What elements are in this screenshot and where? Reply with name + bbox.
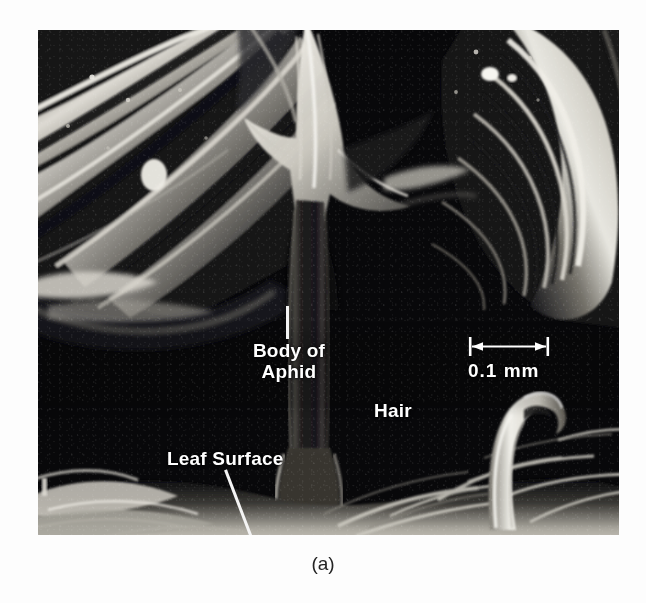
label-body-of-aphid: Body of Aphid <box>229 340 349 383</box>
micrograph-image: Body of Aphid Hair Leaf Surface 0.1 mm <box>38 30 619 535</box>
scale-bar-graphic <box>468 336 550 357</box>
figure-caption: (a) <box>0 553 646 575</box>
micrograph-canvas <box>38 30 619 535</box>
figure-root: Body of Aphid Hair Leaf Surface 0.1 mm (… <box>0 0 646 603</box>
leader-line-body-of-aphid <box>286 306 289 339</box>
label-hair: Hair <box>374 400 412 421</box>
scale-bar <box>468 336 550 357</box>
label-scale-value: 0.1 mm <box>468 360 539 381</box>
label-leaf-surface: Leaf Surface <box>167 448 283 469</box>
